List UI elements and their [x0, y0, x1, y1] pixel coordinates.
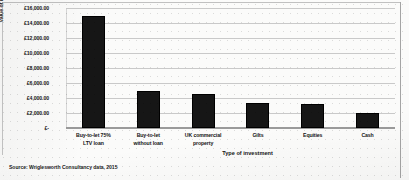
- bar: [356, 113, 379, 128]
- x-axis-tick-label: UK commercialproperty: [174, 132, 232, 147]
- x-axis-tick-label: Gilts: [229, 132, 287, 140]
- x-axis-tick-label-line: without loan: [119, 140, 177, 148]
- bar: [82, 16, 105, 129]
- y-axis-tick-label: £8,000.00: [27, 65, 49, 71]
- x-axis-tick-label-line: Buy-to-let: [119, 132, 177, 140]
- gridline: [66, 53, 395, 54]
- x-axis-title-row: Type of investment: [0, 150, 409, 156]
- x-axis-tick-label-line: Equities: [284, 132, 342, 140]
- x-axis-tick-label: Equities: [284, 132, 342, 140]
- y-axis-tick-label: £-: [45, 125, 49, 131]
- bar: [192, 94, 215, 128]
- scanned-page: Value of investment £16,000.00£14,000.00…: [0, 0, 409, 180]
- bar-column: [192, 8, 215, 128]
- bar: [137, 91, 160, 129]
- bar-chart: Value of investment £16,000.00£14,000.00…: [0, 0, 409, 158]
- gridline: [66, 8, 395, 9]
- x-axis-title: Type of investment: [136, 150, 273, 156]
- bar-column: [82, 8, 105, 128]
- x-axis-tick-label: Buy-to-let 75%LTV loan: [65, 132, 123, 147]
- y-axis-tick-label: £6,000.00: [27, 80, 49, 86]
- gridline: [66, 68, 395, 69]
- gridline: [66, 113, 395, 114]
- bar-column: [356, 8, 379, 128]
- plot-area: £16,000.00£14,000.00£12,000.00£10,000.00…: [66, 8, 395, 128]
- gridline: [66, 128, 395, 129]
- source-note: Source: Wriglesworth Consultancy data, 2…: [9, 164, 117, 170]
- page-border-left: [2, 2, 3, 155]
- gridline: [66, 38, 395, 39]
- x-axis-tick-label-line: UK commercial: [174, 132, 232, 140]
- y-axis-tick-label: £2,000.00: [27, 110, 49, 116]
- x-axis-tick-label: Buy-to-letwithout loan: [119, 132, 177, 147]
- bar-column: [246, 8, 269, 128]
- x-axis-tick-label: Cash: [339, 132, 397, 140]
- bar: [246, 103, 269, 129]
- bar-column: [301, 8, 324, 128]
- x-axis-tick-label-line: Cash: [339, 132, 397, 140]
- page-border-right: [400, 2, 401, 178]
- bar: [301, 104, 324, 128]
- x-axis-tick-label-line: Gilts: [229, 132, 287, 140]
- y-axis-tick-label: £12,000.00: [24, 35, 49, 41]
- y-axis-tick-label: £16,000.00: [24, 5, 49, 11]
- y-axis-tick-label: £4,000.00: [27, 95, 49, 101]
- page-border-top: [2, 2, 400, 3]
- gridline: [66, 23, 395, 24]
- y-axis-tick-label: £10,000.00: [24, 50, 49, 56]
- bar-column: [137, 8, 160, 128]
- x-axis-tick-label-line: LTV loan: [65, 140, 123, 148]
- gridline: [66, 98, 395, 99]
- x-axis-tick-label-line: property: [174, 140, 232, 148]
- x-axis-tick-label-line: Buy-to-let 75%: [65, 132, 123, 140]
- gridline: [66, 83, 395, 84]
- y-axis-tick-label: £14,000.00: [24, 20, 49, 26]
